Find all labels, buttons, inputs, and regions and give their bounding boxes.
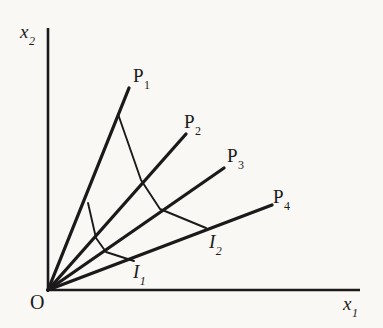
y-axis-label: x2 [20, 22, 34, 44]
isoquant-label-i2: I2 [209, 232, 221, 254]
ray-label-p1-sub: 1 [144, 78, 150, 92]
isoquant-label-i1-sub: 1 [140, 274, 146, 288]
x-axis-label-base: x [343, 293, 351, 314]
ray-p1 [48, 88, 129, 290]
isoquant-diagram [0, 0, 383, 328]
x-axis-label: x1 [343, 294, 357, 316]
isoquants-group [88, 114, 206, 261]
ray-p4 [48, 205, 272, 290]
ray-label-p2: P2 [184, 112, 201, 134]
figure-container: x2 x1 O P1 P2 P3 P4 I1 I2 [0, 0, 383, 328]
ray-label-p4-sub: 4 [284, 199, 290, 213]
isoquant-label-i2-sub: 2 [216, 244, 222, 258]
y-axis-label-base: x [20, 21, 28, 42]
isoquant-label-i1-base: I [133, 261, 139, 282]
x-axis-label-sub: 1 [352, 306, 358, 320]
ray-label-p4-base: P [273, 186, 284, 207]
ray-label-p2-sub: 2 [195, 124, 201, 138]
ray-label-p4: P4 [273, 187, 290, 209]
ray-label-p2-base: P [184, 111, 195, 132]
isoquant-i1-curve [88, 203, 134, 261]
ray-label-p3-base: P [227, 145, 238, 166]
isoquant-label-i2-base: I [209, 231, 215, 252]
isoquant-label-i1: I1 [133, 262, 145, 284]
ray-label-p1: P1 [133, 66, 150, 88]
origin-label-text: O [30, 291, 44, 313]
activity-rays-group [48, 88, 272, 290]
origin-label: O [30, 292, 44, 312]
y-axis-label-sub: 2 [29, 34, 35, 48]
ray-label-p3-sub: 3 [238, 158, 244, 172]
axes-group [46, 28, 360, 290]
ray-label-p1-base: P [133, 65, 144, 86]
ray-label-p3: P3 [227, 146, 244, 168]
